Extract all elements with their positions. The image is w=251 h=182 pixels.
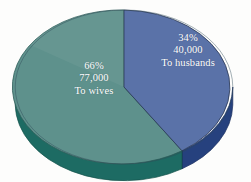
pie-chart-graphic — [0, 0, 251, 182]
pie-chart-figure: 34% 40,000 To husbands 66% 77,000 To wiv… — [0, 0, 251, 182]
